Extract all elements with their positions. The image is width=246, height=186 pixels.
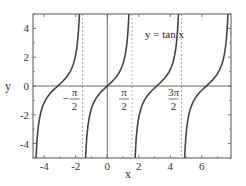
- x-tick-label: 0: [105, 160, 111, 172]
- x-tick-label: -2: [71, 160, 80, 172]
- asymptote-label: 3π2: [168, 86, 180, 112]
- asymptote-label-den: 2: [72, 100, 78, 112]
- y-tick-label: -4: [20, 138, 30, 150]
- asymptote-label-sign: −: [62, 92, 68, 104]
- plot-area: π2−π23π2: [33, 0, 231, 186]
- y-tick-label: 0: [24, 80, 30, 92]
- asymptote-label-num: π: [72, 86, 78, 98]
- y-axis-label: y: [5, 79, 11, 93]
- asymptote-label: π2−: [62, 86, 79, 112]
- y-tick-label: -2: [20, 109, 29, 121]
- x-axis-label: x: [125, 167, 131, 181]
- asymptote-label-num: 3π: [168, 86, 180, 98]
- asymptote-label-den: 2: [121, 100, 127, 112]
- y-tick-label: 4: [24, 22, 30, 34]
- curve-annotation: y = tan x: [145, 28, 184, 40]
- asymptote-label-num: π: [121, 86, 127, 98]
- asymptote-label: π2: [119, 86, 129, 112]
- x-tick-label: 2: [136, 160, 142, 172]
- y-tick-label: 2: [24, 51, 30, 63]
- asymptote-label-den: 2: [171, 100, 177, 112]
- tan-chart: π2−π23π2 -4-20246-4-2024 x y y = tan x: [0, 0, 246, 186]
- x-tick-label: 4: [168, 160, 174, 172]
- x-tick-label: 6: [199, 160, 205, 172]
- x-tick-label: -4: [40, 160, 50, 172]
